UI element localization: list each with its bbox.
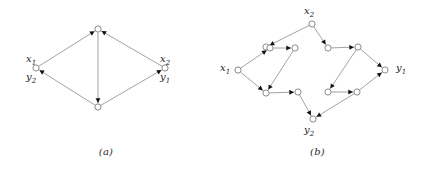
node-y2[interactable] [310, 116, 316, 122]
node-top[interactable] [95, 26, 101, 32]
edge-l1-to-l2 [270, 90, 294, 95]
label-x1: x1 [220, 63, 230, 76]
label-x2-subscript: 2 [310, 11, 314, 19]
edge-x1-to-u2 [241, 50, 267, 68]
label-y1: y1 [160, 72, 170, 85]
label-y1: y1 [396, 63, 406, 76]
edge-u4-to-u5 [332, 45, 354, 50]
edge-l4-to-y2-arrowhead [316, 112, 321, 116]
diagram-a-canvas [0, 0, 212, 140]
label-x1-subscript: 1 [226, 68, 230, 76]
edge-u5-to-l3-arrowhead [330, 83, 335, 88]
edge-left-to-top-arrowhead [89, 31, 94, 35]
node-u5[interactable] [355, 44, 361, 50]
edge-x1-to-u2-arrowhead [261, 50, 266, 55]
node-u3[interactable] [292, 45, 298, 51]
node-l1[interactable] [263, 90, 269, 96]
node-x1[interactable] [235, 67, 241, 73]
figure-panel-b: (b) x2x1y1y2 [212, 0, 423, 175]
edge-l3-to-l4 [332, 90, 353, 95]
edge-u5-to-y1 [361, 49, 382, 67]
edge-x2-to-u4 [314, 27, 326, 45]
figure-root: (a) x1y2x2y1 (b) x2x1y1y2 [0, 0, 423, 175]
edge-u5-to-l3 [330, 50, 356, 89]
edge-right-to-top [102, 31, 162, 66]
node-u4[interactable] [325, 45, 331, 51]
label-y2: y2 [304, 125, 314, 138]
edge-l4-to-y1-arrowhead [377, 73, 382, 78]
node-l2[interactable] [295, 89, 301, 95]
edge-u3-to-l1 [268, 51, 293, 89]
label-x2: x2 [160, 54, 170, 67]
node-u2[interactable] [267, 45, 273, 51]
node-bottom[interactable] [95, 104, 101, 110]
caption-b: (b) [212, 146, 423, 157]
node-y1[interactable] [382, 67, 388, 73]
label-y2-subscript: 2 [310, 130, 314, 138]
edge-bottom-to-left-arrowhead [39, 70, 44, 74]
node-x2[interactable] [309, 21, 315, 27]
edge-u2-to-u3-arrowhead [286, 46, 291, 51]
edge-x1-to-l1 [241, 72, 263, 90]
label-x2: x2 [304, 6, 314, 19]
edge-top-to-bottom [96, 33, 101, 103]
edge-u3-to-l1-arrowhead [268, 84, 273, 89]
label-y2-subscript: 2 [32, 77, 36, 85]
edge-left-to-top [39, 31, 94, 66]
edge-bottom-to-left [39, 70, 94, 105]
edge-u4-to-u5-arrowhead [349, 45, 354, 50]
node-l4[interactable] [354, 89, 360, 95]
edge-l4-to-y1 [360, 73, 382, 90]
node-l3[interactable] [325, 89, 331, 95]
edge-x2-to-u4-arrowhead [321, 39, 326, 44]
edge-bottom-to-right [101, 70, 161, 105]
label-y2: y2 [26, 72, 36, 85]
caption-a: (a) [0, 146, 212, 157]
label-x1-subscript: 1 [32, 59, 36, 67]
edge-l3-to-l4-arrowhead [348, 90, 353, 95]
label-x1: x1 [26, 54, 36, 67]
label-y1-subscript: 1 [402, 68, 406, 76]
edge-x2-to-u1 [270, 26, 309, 46]
edge-l4-to-y2 [316, 94, 353, 117]
figure-panel-a: (a) x1y2x2y1 [0, 0, 212, 175]
edge-l1-to-l2-arrowhead [289, 90, 294, 95]
edge-top-to-bottom-arrowhead [96, 98, 101, 103]
edge-l2-to-y2 [300, 95, 311, 115]
edge-u2-to-u3 [274, 46, 291, 51]
diagram-b-canvas [212, 0, 423, 140]
label-y1-subscript: 1 [166, 77, 170, 85]
label-x2-subscript: 2 [166, 59, 170, 67]
